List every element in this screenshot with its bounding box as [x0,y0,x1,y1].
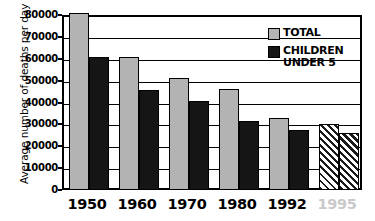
y-tick-mark [58,145,62,147]
bar-group-1995 [319,0,359,190]
bar-1950-total [69,13,89,190]
y-tick-mark [58,80,62,82]
bar-1980-children-under-5 [239,121,259,190]
bar-group-1970 [169,0,209,190]
y-tick-label: 20000 [16,141,58,151]
bar-1992-total [269,118,289,190]
bar-1970-total [169,78,189,190]
y-tick-label: 0 [16,185,58,195]
bar-1992-children-under-5 [289,130,309,190]
y-tick-label: 40000 [16,98,58,108]
y-tick-label: 70000 [16,32,58,42]
bar-group-1950 [69,0,109,190]
legend-swatch-total [268,28,280,40]
x-tick-label-1950: 1950 [62,196,112,212]
bar-group-1960 [119,0,159,190]
bar-1995-total [319,124,339,190]
y-tick-label: 30000 [16,119,58,129]
bar-1995-children-under-5 [339,133,359,190]
y-tick-mark [58,123,62,125]
legend-swatch-children [268,46,280,58]
y-tick-mark [58,167,62,169]
y-axis-tick-labels: 0100002000030000400005000060000700008000… [16,9,58,193]
y-tick-label: 10000 [16,163,58,173]
x-axis-tick-labels: 195019601970198019921995 [62,196,362,216]
x-tick-label-1992: 1992 [262,196,312,212]
y-tick-label: 60000 [16,54,58,64]
x-tick-label-1980: 1980 [212,196,262,212]
legend-label: TOTAL [283,27,321,39]
legend-entry-children-under-5: CHILDREN UNDER 5 [268,45,343,68]
legend-entry-total: TOTAL [268,27,321,40]
y-tick-mark [58,102,62,104]
bar-1980-total [219,89,239,190]
x-tick-label-1995: 1995 [312,196,362,212]
x-tick-label-1960: 1960 [112,196,162,212]
y-tick-mark [58,58,62,60]
bar-1950-children-under-5 [89,57,109,190]
y-tick-mark [58,14,62,16]
bar-group-1980 [219,0,259,190]
y-tick-label: 50000 [16,76,58,86]
y-tick-label: 80000 [16,10,58,20]
bar-1960-total [119,57,139,190]
bar-1960-children-under-5 [139,90,159,190]
y-tick-mark [58,36,62,38]
legend-label: CHILDREN UNDER 5 [283,45,343,68]
x-tick-label-1970: 1970 [162,196,212,212]
y-tick-mark [58,189,62,191]
bar-1970-children-under-5 [189,101,209,190]
bar-chart: Average number of deaths per day 0100002… [0,0,375,221]
